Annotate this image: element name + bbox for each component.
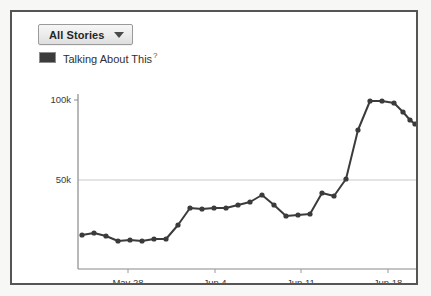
data-point[interactable] bbox=[79, 232, 84, 237]
data-point[interactable] bbox=[199, 206, 204, 211]
data-point[interactable] bbox=[163, 236, 168, 241]
data-point[interactable] bbox=[115, 238, 120, 243]
data-point[interactable] bbox=[355, 127, 360, 132]
chart-axes bbox=[74, 94, 416, 269]
insights-chart-panel: All Stories Talking About This? 100k50k … bbox=[10, 10, 418, 285]
data-point[interactable] bbox=[103, 233, 108, 238]
data-point[interactable] bbox=[307, 211, 312, 216]
data-point[interactable] bbox=[247, 199, 252, 204]
data-point[interactable] bbox=[319, 190, 324, 195]
svg-text:50k: 50k bbox=[56, 174, 72, 185]
data-point[interactable] bbox=[259, 192, 264, 197]
chart-y-tick-labels: 100k50k bbox=[50, 94, 71, 185]
data-point[interactable] bbox=[211, 205, 216, 210]
data-point[interactable] bbox=[235, 202, 240, 207]
chart-x-tick-labels: May 28Jun 4Jun 11Jun 18 bbox=[112, 277, 402, 283]
data-point[interactable] bbox=[139, 238, 144, 243]
data-point[interactable] bbox=[400, 109, 405, 114]
series-markers bbox=[79, 98, 416, 243]
data-point[interactable] bbox=[391, 100, 396, 105]
svg-text:Jun 4: Jun 4 bbox=[203, 277, 226, 283]
svg-text:Jun 11: Jun 11 bbox=[287, 277, 315, 283]
data-point[interactable] bbox=[91, 230, 96, 235]
svg-text:Jun 18: Jun 18 bbox=[374, 277, 403, 283]
data-point[interactable] bbox=[151, 236, 156, 241]
svg-text:May 28: May 28 bbox=[112, 277, 143, 283]
data-point[interactable] bbox=[331, 193, 336, 198]
data-point[interactable] bbox=[283, 213, 288, 218]
chart-area: 100k50k May 28Jun 4Jun 11Jun 18 bbox=[12, 12, 416, 283]
data-point[interactable] bbox=[175, 222, 180, 227]
data-point[interactable] bbox=[407, 117, 412, 122]
data-point[interactable] bbox=[343, 176, 348, 181]
screenshot-root: All Stories Talking About This? 100k50k … bbox=[0, 0, 431, 296]
series-line-talking-about-this bbox=[82, 101, 415, 241]
data-point[interactable] bbox=[379, 98, 384, 103]
data-point[interactable] bbox=[127, 237, 132, 242]
data-point[interactable] bbox=[367, 98, 372, 103]
line-chart[interactable]: 100k50k May 28Jun 4Jun 11Jun 18 bbox=[12, 12, 416, 283]
svg-text:100k: 100k bbox=[50, 94, 71, 105]
data-point[interactable] bbox=[295, 212, 300, 217]
data-point[interactable] bbox=[223, 205, 228, 210]
data-point[interactable] bbox=[187, 205, 192, 210]
data-point[interactable] bbox=[271, 202, 276, 207]
